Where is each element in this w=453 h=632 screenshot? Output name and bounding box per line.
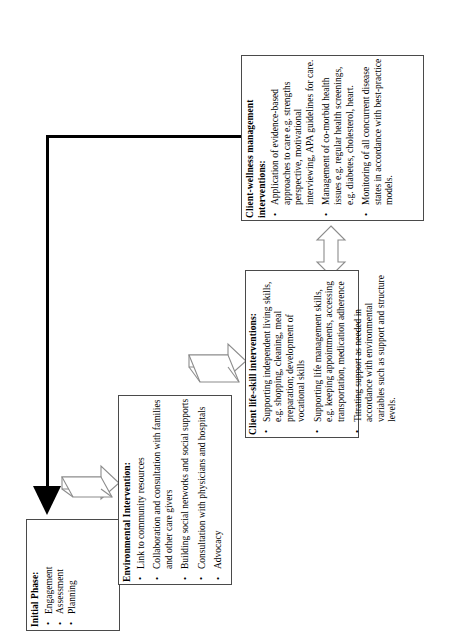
box-client-wellness-management-interventions-content: Client-wellness management interventions… — [244, 58, 421, 218]
box-initial-phase-content: Initial Phase: Engagement Assessment Pla… — [30, 523, 116, 627]
box-client-life-skill-interventions: Client life-skill interventions: Support… — [245, 270, 359, 438]
list-item: Advocacy — [213, 398, 225, 582]
list-item: Link to community resources — [136, 398, 148, 582]
diagram-canvas: Initial Phase: Engagement Assessment Pla… — [0, 0, 453, 632]
box-environmental-intervention-content: Environmental Intervention: Link to comm… — [122, 398, 228, 582]
box-client-life-skill-interventions-heading: Client life-skill interventions: — [248, 273, 260, 435]
box-environmental-intervention-bullet-list: Link to community resources Collaboratio… — [136, 398, 226, 582]
box-client-life-skill-interventions-content: Client life-skill interventions: Support… — [248, 273, 356, 435]
box-initial-phase-heading: Initial Phase: — [30, 523, 42, 627]
list-item: Supporting independent living skills, e.… — [262, 273, 308, 435]
list-item: Application of evidence-based approaches… — [269, 58, 315, 218]
box-initial-phase: Initial Phase: Engagement Assessment Pla… — [26, 519, 120, 631]
box-client-wellness-management-interventions-heading-line1: Client-wellness management — [244, 58, 256, 218]
box-environmental-intervention: Environmental Intervention: Link to comm… — [118, 395, 232, 585]
list-item: Assessment — [55, 523, 67, 627]
box-client-wellness-management-interventions-heading-line2: interventions: — [256, 58, 268, 218]
list-item: Engagement — [44, 523, 56, 627]
box-client-wellness-management-interventions-bullet-list: Application of evidence-based approaches… — [269, 58, 395, 218]
block-arrow-environmental-to-lifeskill — [189, 344, 246, 382]
list-item: Management of co-morbid health issues e.… — [320, 58, 355, 218]
box-client-wellness-management-interventions: Client-wellness management interventions… — [241, 55, 424, 221]
box-initial-phase-bullet-list: Engagement Assessment Planning — [44, 523, 79, 627]
list-item: Consultation with physicians and hospita… — [197, 398, 209, 582]
list-item: Building social networks and social supp… — [180, 398, 192, 582]
box-environmental-intervention-heading: Environmental Intervention: — [122, 398, 134, 582]
list-item: Titrating support as needed in accordanc… — [353, 273, 399, 435]
block-arrow-lifeskill-to-wellness — [317, 226, 345, 276]
box-client-life-skill-interventions-bullet-list: Supporting independent living skills, e.… — [262, 273, 400, 435]
list-item: Planning — [67, 523, 79, 627]
list-item: Monitoring of all concurrent disease sta… — [360, 58, 395, 218]
list-item: Supporting life management skills, e.g. … — [313, 273, 348, 435]
list-item: Collaboration and consultation with fami… — [152, 398, 175, 582]
